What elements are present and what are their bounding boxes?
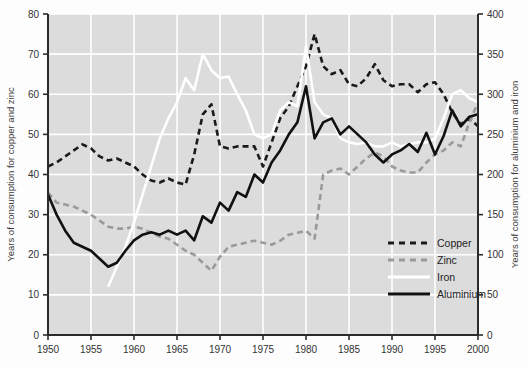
y-tick-label-right: 0 [487, 330, 493, 341]
x-tick-label: 2000 [467, 344, 490, 355]
y-tick-label-left: 80 [28, 9, 40, 20]
x-tick-label: 1960 [123, 344, 146, 355]
x-tick-label: 1970 [209, 344, 232, 355]
x-tick-label: 1990 [381, 344, 404, 355]
y-tick-label-left: 60 [28, 89, 40, 100]
y-tick-label-left: 20 [28, 249, 40, 260]
y-tick-label-left: 70 [28, 49, 40, 60]
y-tick-label-right: 50 [487, 289, 499, 300]
x-tick-label: 1975 [252, 344, 275, 355]
y-tick-label-left: 40 [28, 169, 40, 180]
y-tick-label-left: 30 [28, 209, 40, 220]
chart-figure: 0102030405060708005010015020025030035040… [0, 0, 529, 368]
legend-label-zinc: Zinc [437, 254, 457, 266]
x-tick-label: 1950 [37, 344, 60, 355]
x-tick-label: 1995 [424, 344, 447, 355]
y-tick-label-right: 150 [487, 209, 504, 220]
y-tick-label-right: 400 [487, 9, 504, 20]
legend-label-copper: Copper [437, 237, 472, 249]
y-tick-label-right: 100 [487, 249, 504, 260]
legend-label-iron: Iron [437, 271, 455, 283]
x-tick-label: 1965 [166, 344, 189, 355]
y-tick-label-left: 0 [33, 330, 39, 341]
y-tick-label-right: 300 [487, 89, 504, 100]
y-tick-label-right: 350 [487, 49, 504, 60]
legend-label-aluminium: Aluminium [437, 288, 486, 300]
y-tick-label-right: 250 [487, 129, 504, 140]
line-chart: 0102030405060708005010015020025030035040… [0, 0, 529, 368]
x-tick-label: 1985 [338, 344, 361, 355]
y-axis-title-left: Years of consumption for copper and zinc [5, 87, 16, 262]
y-axis-title-right: Years of consumption for aluminium and i… [509, 81, 520, 269]
y-tick-label-left: 10 [28, 289, 40, 300]
x-tick-label: 1980 [295, 344, 318, 355]
y-tick-label-right: 200 [487, 169, 504, 180]
y-tick-label-left: 50 [28, 129, 40, 140]
x-tick-label: 1955 [80, 344, 103, 355]
